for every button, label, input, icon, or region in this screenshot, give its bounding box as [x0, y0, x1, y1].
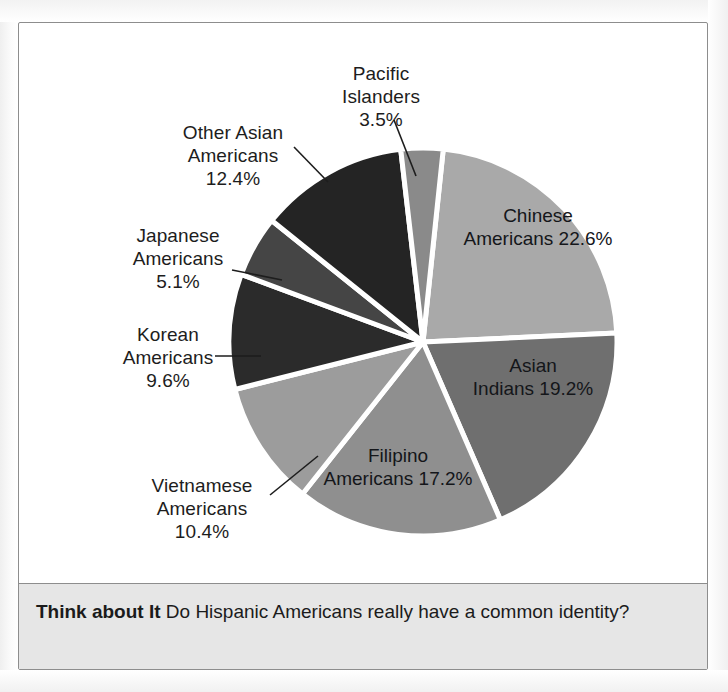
inlabel-filipino-americans-line2: Americans: [324, 468, 414, 489]
callout-other-asian-americans-line2: Americans: [188, 145, 279, 166]
inlabel-asian-indians: Asian Indians 19.2%: [468, 354, 598, 400]
callout-other-asian-americans-percent: 12.4%: [148, 167, 318, 190]
inlabel-chinese-americans-percent: 22.6%: [559, 228, 613, 249]
callout-japanese-americans-percent: 5.1%: [98, 270, 258, 293]
caption-body: Do Hispanic Americans really have a comm…: [166, 601, 630, 622]
inlabel-chinese-americans: Chinese Americans 22.6%: [458, 204, 618, 250]
inlabel-asian-indians-line2: Indians: [473, 378, 534, 399]
callout-pacific-islanders-line1: Pacific: [353, 63, 410, 84]
figure-page: Pacific Islanders 3.5% Other Asian Ameri…: [0, 0, 728, 692]
inlabel-filipino-americans-percent: 17.2%: [419, 468, 473, 489]
page-right-edge: [708, 0, 728, 692]
callout-pacific-islanders-line2: Islanders: [342, 86, 420, 107]
inlabel-chinese-americans-line1: Chinese: [503, 205, 573, 226]
inlabel-asian-indians-percent: 19.2%: [539, 378, 593, 399]
callout-other-asian-americans: Other Asian Americans 12.4%: [148, 121, 318, 190]
callout-pacific-islanders-percent: 3.5%: [306, 108, 456, 131]
caption-bar: Think about It Do Hispanic Americans rea…: [19, 583, 707, 669]
callout-korean-americans-line2: Americans: [123, 347, 214, 368]
callout-korean-americans-line1: Korean: [137, 324, 199, 345]
callout-vietnamese-americans-line2: Americans: [157, 498, 248, 519]
callout-japanese-americans: Japanese Americans 5.1%: [98, 224, 258, 293]
caption-heading: Think about It: [36, 601, 161, 622]
page-bottom-edge: [0, 670, 728, 692]
callout-japanese-americans-line2: Americans: [133, 248, 224, 269]
caption-text: Think about It Do Hispanic Americans rea…: [36, 598, 676, 626]
callout-vietnamese-americans-percent: 10.4%: [112, 520, 292, 543]
inlabel-filipino-americans-line1: Filipino: [368, 445, 428, 466]
callout-pacific-islanders: Pacific Islanders 3.5%: [306, 62, 456, 131]
callout-korean-americans: Korean Americans 9.6%: [88, 323, 248, 392]
inlabel-filipino-americans: Filipino Americans 17.2%: [313, 444, 483, 490]
inlabel-chinese-americans-line2: Americans: [464, 228, 554, 249]
pie-chart-area: Pacific Islanders 3.5% Other Asian Ameri…: [18, 22, 708, 582]
callout-vietnamese-americans: Vietnamese Americans 10.4%: [112, 474, 292, 543]
inlabel-asian-indians-line1: Asian: [509, 355, 557, 376]
callout-japanese-americans-line1: Japanese: [136, 225, 219, 246]
callout-vietnamese-americans-line1: Vietnamese: [152, 475, 253, 496]
callout-korean-americans-percent: 9.6%: [88, 369, 248, 392]
page-top-edge: [0, 0, 728, 22]
page-left-edge: [0, 0, 18, 692]
callout-other-asian-americans-line1: Other Asian: [183, 122, 283, 143]
